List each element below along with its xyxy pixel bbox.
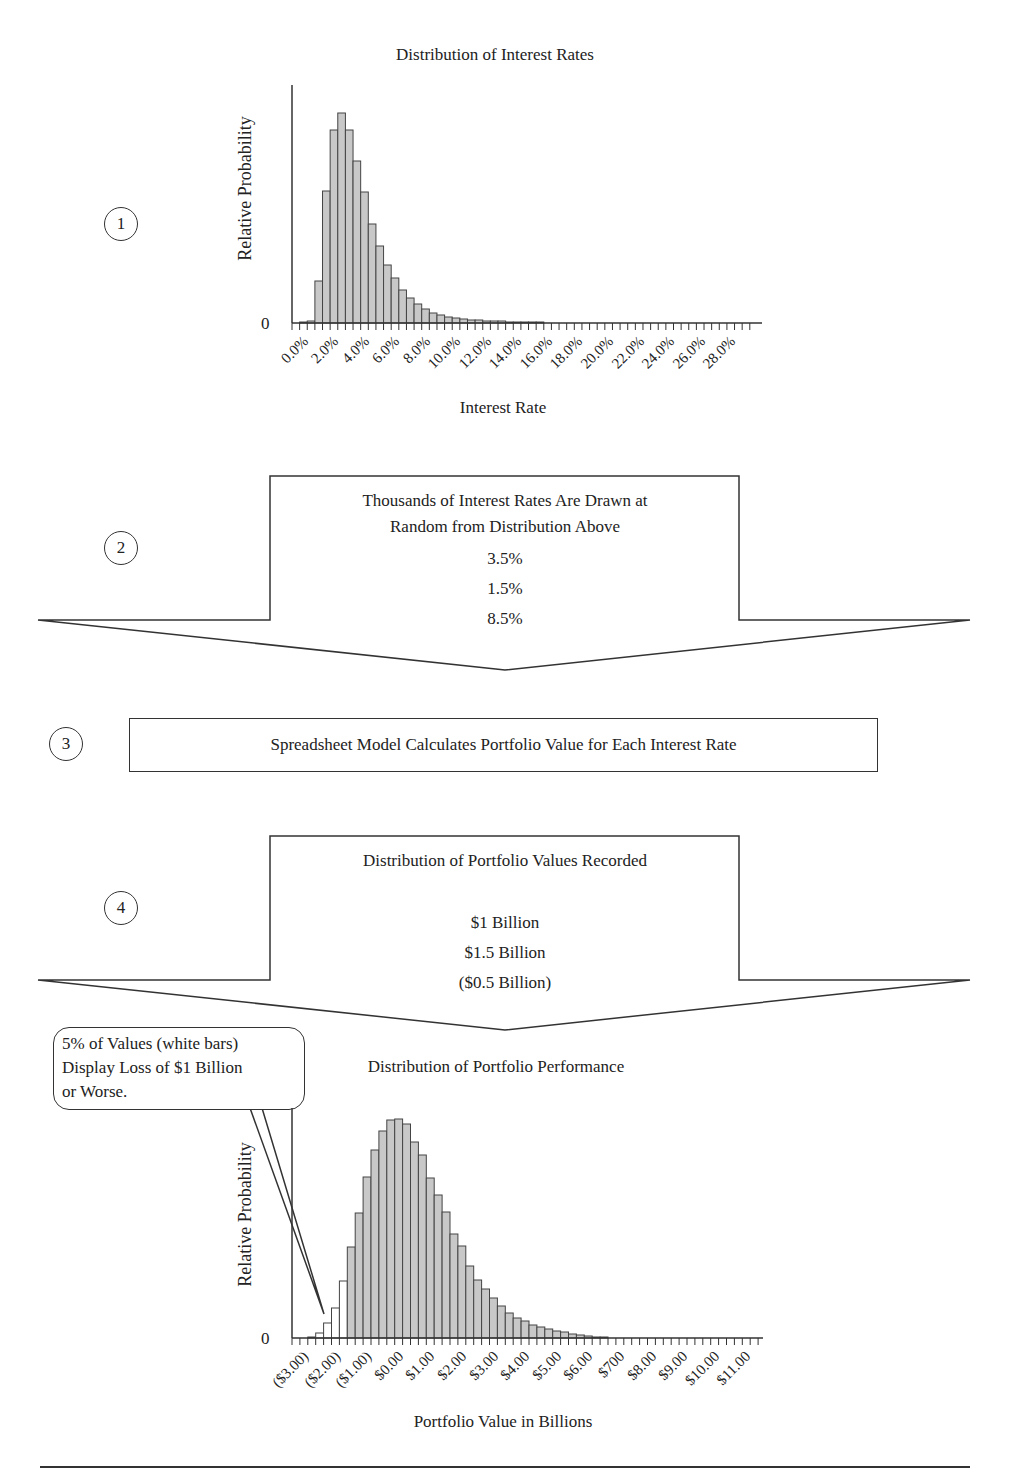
step-2-line2: Random from Distribution Above [290,514,720,540]
portfolio-chart-title: Distribution of Portfolio Performance [296,1057,696,1077]
portfolio-chart-y-zero: 0 [261,1329,270,1349]
callout-line1: 5% of Values (white bars) [62,1032,296,1056]
callout-line2: Display Loss of $1 Billion [62,1056,296,1080]
sample-value-1: $1 Billion [290,910,720,936]
portfolio-chart-x-label: Portfolio Value in Billions [353,1412,653,1432]
sample-value-3: ($0.5 Billion) [290,970,720,996]
sample-rate-3: 8.5% [290,606,720,632]
portfolio-chart-y-label: Relative Probability [235,1140,256,1290]
step-4-text: Distribution of Portfolio Values Recorde… [290,848,720,996]
interest-chart-y-label: Relative Probability [235,114,256,264]
step-2-text: Thousands of Interest Rates Are Drawn at… [290,488,720,632]
loss-callout: 5% of Values (white bars) Display Loss o… [53,1027,305,1110]
interest-chart-x-label: Interest Rate [403,398,603,418]
callout-line3: or Worse. [62,1080,296,1104]
step-2-line1: Thousands of Interest Rates Are Drawn at [290,488,720,514]
step-3-marker: 3 [49,727,83,761]
step-1-marker: 1 [104,207,138,241]
step-2-marker: 2 [104,531,138,565]
sample-value-2: $1.5 Billion [290,940,720,966]
interest-chart-y-zero: 0 [261,314,270,334]
sample-rate-2: 1.5% [290,576,720,602]
sample-rate-1: 3.5% [290,546,720,572]
step-4-line1: Distribution of Portfolio Values Recorde… [290,848,720,874]
step-4-marker: 4 [104,891,138,925]
step-3-text: Spreadsheet Model Calculates Portfolio V… [270,735,736,755]
step-3-box: Spreadsheet Model Calculates Portfolio V… [129,718,878,772]
bottom-divider [40,1466,970,1468]
interest-rate-chart-title: Distribution of Interest Rates [295,45,695,65]
